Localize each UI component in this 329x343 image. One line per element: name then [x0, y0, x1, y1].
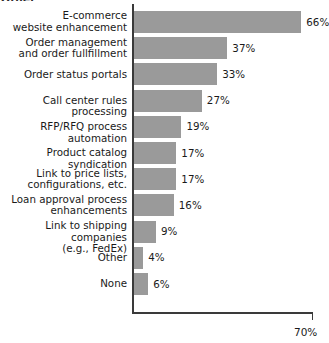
bar-value-label: 33%: [222, 69, 245, 80]
bar-category-label: Other: [0, 252, 127, 264]
bar-value-label: 4%: [148, 252, 164, 263]
bar-category-label: Order status portals: [0, 69, 127, 81]
bar: [133, 90, 202, 112]
bar: [133, 63, 217, 85]
bar: [133, 37, 227, 59]
bar: [133, 116, 181, 138]
bar-category-label: None: [0, 278, 127, 290]
bar: [133, 168, 176, 190]
bar-category-label: RFP/RFQ process automation: [0, 121, 127, 144]
bar: [133, 273, 148, 295]
bar: [133, 194, 174, 216]
bar: [133, 11, 301, 33]
bar-category-label: Link to shipping companies (e.g., FedEx): [0, 220, 127, 255]
bar-category-label: Loan approval process enhancements: [0, 194, 127, 217]
bar: [133, 142, 176, 164]
bar-value-label: 66%: [306, 17, 329, 28]
bar: [133, 221, 156, 243]
bar: [133, 247, 143, 269]
bar-value-label: 37%: [232, 43, 255, 54]
bar-category-label: Order management and order fullfillment: [0, 37, 127, 60]
x-axis-max-label: 70%: [294, 326, 317, 338]
bar-value-label: 6%: [153, 279, 169, 290]
y-axis-line: [132, 4, 134, 314]
bar-value-label: 17%: [181, 174, 204, 185]
bar-value-label: 19%: [186, 121, 209, 132]
bar-category-label: Call center rules processing: [0, 95, 127, 118]
bar-value-label: 17%: [181, 148, 204, 159]
x-axis-end-tick: [312, 312, 314, 320]
bar-value-label: 9%: [161, 226, 177, 237]
bar-category-label: Link to price lists, configurations, etc…: [0, 168, 127, 191]
bar-value-label: 16%: [179, 200, 202, 211]
bar-category-label: E-commerce website enhancement: [0, 10, 127, 33]
x-axis-line: [132, 312, 313, 314]
bar-value-label: 27%: [207, 95, 230, 106]
